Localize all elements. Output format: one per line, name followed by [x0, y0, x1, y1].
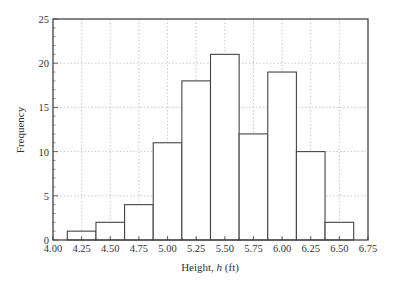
y-tick-label: 20 [39, 58, 50, 69]
y-tick-label: 10 [39, 147, 50, 158]
y-axis-label: Frequency [14, 106, 26, 153]
x-tick-label: 4.25 [72, 243, 90, 254]
x-tick-label: 5.25 [187, 243, 205, 254]
histogram-bar [211, 54, 240, 240]
x-tick-label: 4.50 [101, 243, 119, 254]
y-tick-label: 5 [44, 191, 49, 202]
x-tick-label: 6.00 [273, 243, 291, 254]
histogram-bar [268, 72, 297, 240]
y-tick-label: 0 [44, 235, 49, 246]
histogram-chart: 4.004.254.504.755.005.255.505.756.006.25… [0, 0, 396, 287]
x-tick-label: 6.25 [302, 243, 320, 254]
y-axis-ticks: 0510152025 [39, 14, 59, 246]
x-axis-label: Height, h (ft) [181, 261, 239, 274]
x-tick-label: 5.50 [216, 243, 234, 254]
x-tick-label: 6.75 [359, 243, 377, 254]
histogram-bar [125, 205, 154, 240]
histogram-bar [239, 134, 268, 240]
x-tick-label: 6.50 [330, 243, 348, 254]
histogram-bar [182, 81, 211, 240]
y-tick-label: 25 [39, 14, 50, 25]
histogram-bar [153, 143, 182, 240]
histogram-bar [296, 152, 325, 240]
x-tick-label: 5.75 [244, 243, 262, 254]
x-tick-label: 4.75 [130, 243, 148, 254]
x-tick-label: 5.00 [158, 243, 176, 254]
y-tick-label: 15 [39, 102, 50, 113]
